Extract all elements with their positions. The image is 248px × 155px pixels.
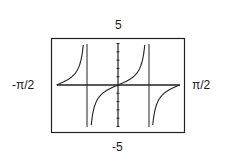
xmax-label: π/2 [192, 78, 210, 92]
ymin-label: -5 [112, 140, 123, 154]
xmin-label: -π/2 [12, 78, 34, 92]
graph [0, 0, 248, 155]
ymax-label: 5 [115, 18, 122, 32]
